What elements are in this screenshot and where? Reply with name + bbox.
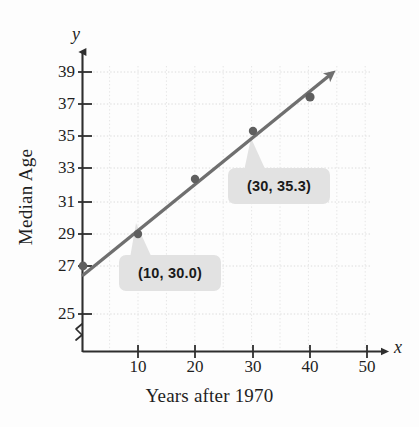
- y-tick-text: 33: [49, 159, 75, 176]
- data-point: [191, 175, 199, 183]
- x-axis-variable-label: x: [394, 337, 402, 358]
- y-axis-title: Median Age: [15, 127, 37, 267]
- y-tick-label-27: 27: [47, 257, 75, 274]
- y-tick-label-39: 39: [47, 63, 75, 80]
- x-tick-label-10: 10: [118, 357, 158, 376]
- x-tick-text: 10: [130, 357, 147, 376]
- y-tick-text: 27: [49, 257, 75, 274]
- y-tick-label-35: 35: [47, 127, 75, 144]
- y-tick-label-37: 37: [47, 95, 75, 112]
- y-axis-break-icon: [76, 324, 82, 340]
- y-tick-text: 37: [49, 95, 75, 112]
- y-tick-marks: [78, 72, 92, 314]
- y-tick-text: 35: [49, 127, 75, 144]
- x-axis-title: Years after 1970: [0, 385, 419, 407]
- x-tick-label-20: 20: [175, 357, 215, 376]
- x-tick-label-30: 30: [233, 357, 273, 376]
- data-point: [134, 230, 142, 238]
- y-tick-label-33: 33: [47, 159, 75, 176]
- x-tick-label-50: 50: [347, 357, 387, 376]
- y-tick-label-29: 29: [47, 225, 75, 242]
- x-tick-text: 30: [245, 357, 262, 376]
- y-tick-text: 25: [49, 305, 75, 322]
- callout-point-10: (10, 30.0): [119, 255, 221, 291]
- chart-figure: 39 37 35 33 31 29 27 25 10 20 30 40 50 y…: [0, 0, 419, 427]
- y-tick-text: 31: [49, 193, 75, 210]
- x-tick-label-40: 40: [290, 357, 330, 376]
- vertical-gridlines: [110, 66, 366, 352]
- callout-point-30: (30, 35.3): [228, 168, 330, 204]
- x-tick-text: 20: [187, 357, 204, 376]
- x-tick-text: 50: [359, 357, 376, 376]
- x-tick-text: 40: [302, 357, 319, 376]
- y-tick-text: 39: [49, 63, 75, 80]
- y-tick-label-31: 31: [47, 193, 75, 210]
- data-point: [249, 127, 257, 135]
- data-point: [305, 92, 314, 101]
- y-tick-text: 29: [49, 225, 75, 242]
- y-axis-variable-label: y: [72, 24, 80, 45]
- y-tick-label-25: 25: [47, 305, 75, 322]
- data-point: [79, 262, 88, 271]
